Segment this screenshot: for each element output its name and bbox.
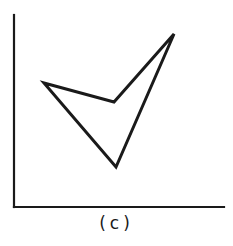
quadrilateral-shape <box>44 34 174 167</box>
figure-caption: (c) <box>0 213 233 233</box>
diagram-canvas <box>0 0 233 246</box>
